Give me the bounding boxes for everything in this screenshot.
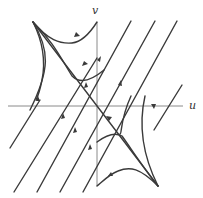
trajectory-line-1: [10, 100, 40, 148]
arrow-icon: [74, 32, 80, 37]
arrow-icon: [84, 82, 88, 88]
arrow-icon: [88, 144, 92, 150]
u-axis-label: u: [189, 99, 196, 112]
trajectory-line-2: [14, 58, 97, 192]
arrow-icon: [97, 56, 101, 62]
arrow-icon: [73, 127, 77, 133]
trajectory-line-6: [154, 85, 182, 130]
v-axis-label: v: [92, 4, 99, 17]
curve-bottom-1: [97, 169, 158, 186]
arrow-icon: [82, 61, 88, 66]
phase-portrait-diagram: u v: [0, 0, 203, 198]
curve-bottom-3: [142, 96, 158, 186]
